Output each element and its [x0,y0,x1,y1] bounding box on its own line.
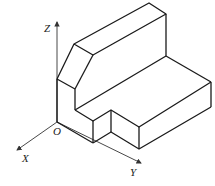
solid-drawing [0,0,215,186]
z-axis-label: Z [44,23,50,34]
solid-edges [57,3,211,149]
isometric-diagram: Z O X Y [0,0,215,186]
x-axis [17,122,57,150]
x-axis-label: X [22,153,29,164]
y-axis-label: Y [130,167,136,178]
origin-label: O [53,126,61,137]
axes [17,22,141,163]
